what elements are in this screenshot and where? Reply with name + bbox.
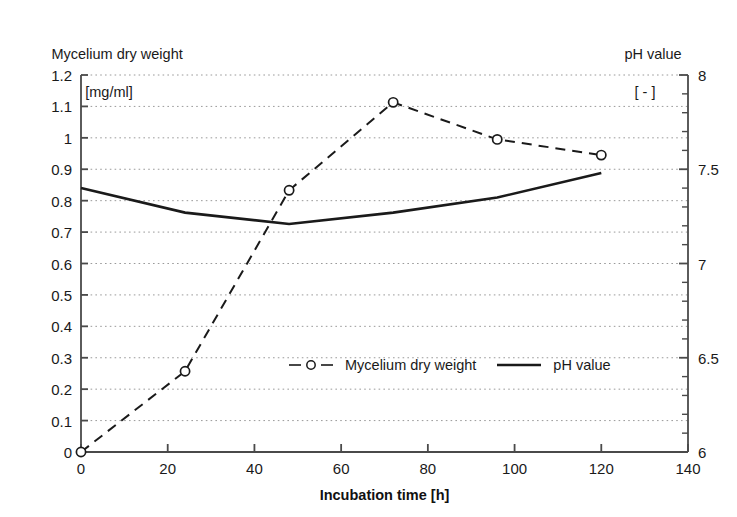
xlabel-text: 100 — [502, 461, 527, 476]
xlabel-text: 60 — [333, 461, 350, 476]
gridlines — [81, 75, 688, 452]
solid-line-icon — [496, 358, 546, 372]
right-axis-ticks — [679, 75, 688, 452]
right-axis-title-main: pH value — [624, 46, 681, 62]
ylabel-right-text: 6 — [698, 445, 706, 460]
ylabel-left-text: 0.9 — [51, 162, 72, 177]
legend-label-ph-value: pH value — [553, 357, 610, 373]
ylabel-left-text: 0.5 — [51, 287, 72, 302]
data-point-marker — [285, 186, 294, 195]
ylabel-left-text: 1.1 — [51, 99, 72, 114]
ylabel-right-text: 8 — [698, 68, 706, 83]
ylabel-left-text: 0.6 — [51, 256, 72, 271]
ylabel-right-text: 7 — [698, 256, 706, 271]
series-line-mycelium-dry-weight — [81, 102, 601, 452]
ylabel-left-text: 0.7 — [51, 225, 72, 240]
left-axis-ticks — [81, 75, 88, 452]
plot-area: 1.21.110.90.80.70.60.50.40.30.20.10 87.5… — [81, 75, 688, 452]
xlabel-text: 20 — [159, 461, 176, 476]
data-series-layer — [76, 98, 605, 457]
ylabel-right-text: 6.5 — [698, 350, 719, 365]
dashed-line-open-circle-icon — [288, 358, 338, 372]
ylabel-left-text: 1 — [64, 130, 72, 145]
data-point-marker — [597, 151, 606, 160]
xlabel-text: 40 — [246, 461, 263, 476]
ylabel-left-text: 0.2 — [51, 382, 72, 397]
data-point-marker — [180, 367, 189, 376]
series-line-ph-value — [81, 173, 601, 224]
ylabel-left-text: 0.8 — [51, 193, 72, 208]
ylabel-left-text: 0.1 — [51, 413, 72, 428]
ylabel-left-text: 0.3 — [51, 350, 72, 365]
chart-figure: Mycelium dry weight [mg/ml] pH value [ -… — [0, 0, 737, 517]
data-point-marker — [493, 135, 502, 144]
data-point-marker — [76, 447, 85, 456]
xlabel-text: 120 — [589, 461, 614, 476]
left-axis-title-main: Mycelium dry weight — [51, 46, 182, 62]
ylabel-left-text: 0 — [64, 445, 72, 460]
x-axis-title: Incubation time [h] — [81, 487, 688, 503]
xlabel-text: 140 — [675, 461, 700, 476]
ylabel-left-text: 1.2 — [51, 68, 72, 83]
chart-legend: Mycelium dry weight pH value — [288, 357, 611, 373]
xlabel-text: 0 — [77, 461, 85, 476]
xlabel-text: 80 — [420, 461, 437, 476]
data-point-marker — [389, 98, 398, 107]
ylabel-left-text: 0.4 — [51, 319, 72, 334]
plot-canvas — [81, 75, 688, 452]
legend-item-mycelium-dry-weight: Mycelium dry weight — [288, 357, 476, 373]
ylabel-right-text: 7.5 — [698, 162, 719, 177]
legend-item-ph-value: pH value — [496, 357, 610, 373]
legend-label-mycelium-dry-weight: Mycelium dry weight — [345, 357, 476, 373]
bottom-axis-ticks — [81, 444, 688, 452]
